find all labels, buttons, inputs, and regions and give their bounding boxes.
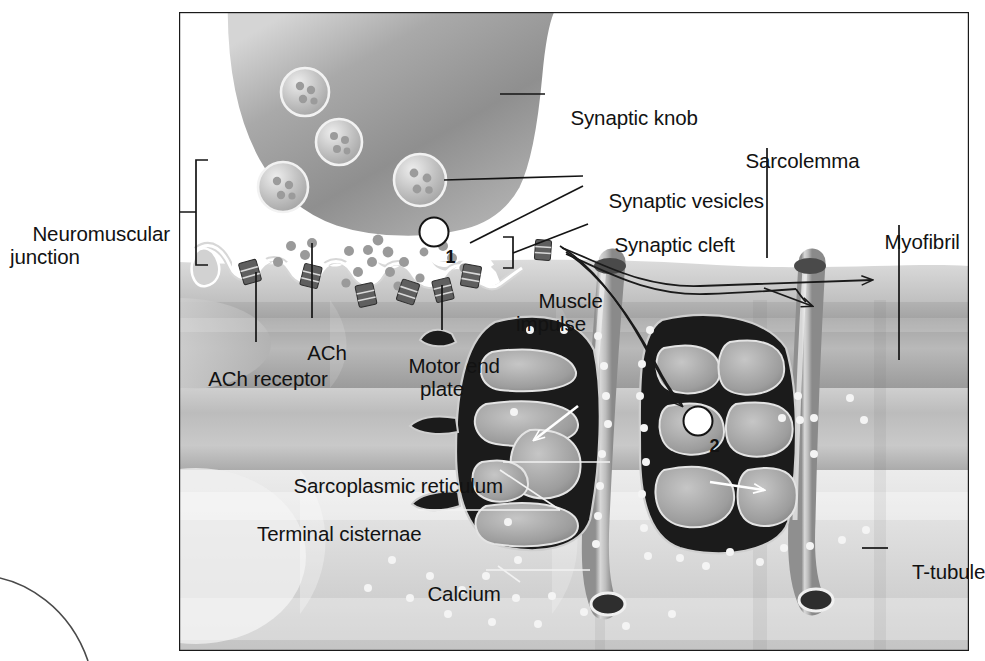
ach-receptor-shape [460,264,482,289]
synaptic-vesicle [316,119,362,165]
t-tubule-right-surface-pore [794,258,826,274]
fiber-highlight-3 [179,598,969,640]
sr-lobe [726,403,793,457]
label-calcium: Calcium [405,558,501,630]
label-neuromuscular-junction: Neuromuscular junction [10,199,170,291]
sr-right-lobes [655,341,796,528]
sr-lobe [718,341,784,395]
sr-lobe [656,345,720,393]
label-myofibril: Myofibril [862,206,960,278]
ach-receptor-shape [355,282,377,307]
label-sarcolemma: Sarcolemma [723,125,859,197]
ach-receptor-shape [534,239,551,260]
label-muscle-impulse: Muscle impulse [516,266,603,358]
synaptic-vesicle [281,68,329,116]
synaptic-vesicle [258,162,308,212]
synaptic-vesicle [394,154,446,206]
label-terminal-cisternae: Terminal cisternae [235,498,422,570]
label-motor-end-plate: Motor end plate [386,331,498,423]
label-synaptic-knob: Synaptic knob [548,82,698,154]
sr-lobe [738,468,797,526]
label-t-tubule: T-tubule [890,536,985,608]
label-synaptic-cleft: Synaptic cleft [592,209,735,281]
step-marker-2-number: 2 [690,410,707,482]
label-ach-receptor: ACh receptor [187,343,328,415]
step-marker-1-number: 1 [426,221,443,293]
